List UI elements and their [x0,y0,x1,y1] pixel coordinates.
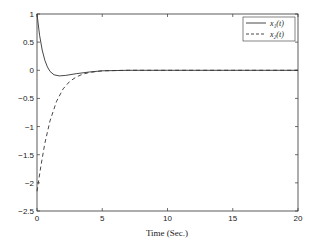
y-tick-label: 1 [30,10,35,19]
legend-item-x2: x₂(t) [269,30,284,39]
y-tick-label: −2.5 [18,207,34,216]
plot-area [37,14,298,211]
x-tick-label: 5 [100,214,105,223]
x-tick-label: 20 [294,214,303,223]
x-tick-label: 15 [228,214,237,223]
x-tick-label: 10 [163,214,172,223]
y-tick-label: 0.5 [23,38,35,47]
y-tick-label: −1.5 [18,151,34,160]
line-chart: 0510152010.50−0.5−1−1.5−2−2.5 Time (Sec.… [0,0,317,248]
y-tick-label: −2 [25,179,35,188]
y-tick-label: −0.5 [18,94,34,103]
y-tick-label: 0 [30,66,35,75]
x-axis-label: Time (Sec.) [146,228,188,238]
y-tick-label: −1 [25,123,35,132]
x-tick-label: 0 [35,214,40,223]
legend: x₁(t) x₂(t) [243,17,295,41]
legend-item-x1: x₁(t) [269,19,284,28]
